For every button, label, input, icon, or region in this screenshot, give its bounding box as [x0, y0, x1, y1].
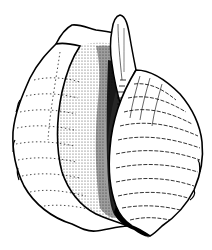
body-whorl [109, 70, 202, 238]
illustration-canvas [0, 0, 212, 250]
seashell-illustration [0, 0, 212, 250]
